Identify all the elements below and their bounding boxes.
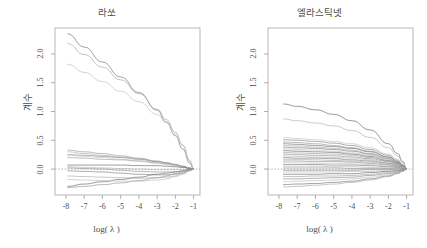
x-tick-label: -2 <box>378 202 398 211</box>
y-tick-label: 0.0 <box>36 158 45 180</box>
y-axis-label-lasso: 계수 <box>23 82 34 122</box>
x-axis-label-lasso: log( λ ) <box>0 224 213 235</box>
y-tick-label: 1.5 <box>249 72 258 94</box>
y-tick-label: 1.0 <box>249 101 258 123</box>
regularization-path-figure: 라쏘 log( λ ) 계수 -8-7-6-5-4-3-2-10.00.51.0… <box>0 0 427 248</box>
x-tick-label: -4 <box>342 202 362 211</box>
y-axis-label-elasticnet: 계수 <box>236 82 247 122</box>
x-tick-label: -1 <box>184 202 204 211</box>
x-tick-label: -2 <box>165 202 185 211</box>
x-tick-label: -6 <box>305 202 325 211</box>
x-tick-label: -3 <box>147 202 167 211</box>
x-tick-label: -5 <box>324 202 344 211</box>
x-tick-label: -8 <box>269 202 289 211</box>
x-tick-label: -3 <box>360 202 380 211</box>
y-tick-label: 1.5 <box>36 72 45 94</box>
y-tick-label: 1.0 <box>36 101 45 123</box>
x-tick-label: -7 <box>74 202 94 211</box>
x-axis-label-elasticnet: log( λ ) <box>213 224 426 235</box>
x-tick-label: -5 <box>111 202 131 211</box>
coefficient-path <box>68 44 194 170</box>
x-tick-label: -7 <box>287 202 307 211</box>
coefficient-path <box>68 34 194 169</box>
x-tick-label: -1 <box>397 202 417 211</box>
y-tick-label: 0.5 <box>36 129 45 151</box>
y-tick-label: 0.5 <box>249 129 258 151</box>
panel-lasso: 라쏘 log( λ ) 계수 -8-7-6-5-4-3-2-10.00.51.0… <box>0 0 213 248</box>
y-tick-label: 2.0 <box>36 43 45 65</box>
y-tick-label: 0.0 <box>249 158 258 180</box>
x-tick-label: -6 <box>92 202 112 211</box>
x-tick-label: -8 <box>56 202 76 211</box>
panel-elasticnet: 엘라스틱넷 log( λ ) 계수 -8-7-6-5-4-3-2-10.00.5… <box>213 0 426 248</box>
x-tick-label: -4 <box>129 202 149 211</box>
y-tick-label: 2.0 <box>249 43 258 65</box>
